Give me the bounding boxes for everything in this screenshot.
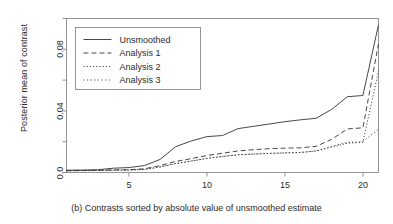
y-axis-tick-label: 0.04	[53, 91, 67, 131]
x-axis-tick-label: 20	[358, 180, 368, 190]
legend-label-2: Analysis 1	[120, 48, 161, 58]
x-axis-tick-label: 10	[202, 180, 212, 190]
y-axis-tick-label: 0.08	[53, 29, 67, 69]
x-axis-tick-label: 5	[126, 180, 131, 190]
figure-caption: (b) Contrasts sorted by absolute value o…	[0, 203, 393, 213]
legend-label-1: Unsmoothed	[120, 35, 171, 45]
y-axis-tick-label: 0.0	[53, 153, 67, 193]
x-axis-tick-label: 15	[280, 180, 290, 190]
legend-label-4: Analysis 3	[120, 75, 161, 85]
legend-label-3: Analysis 2	[120, 62, 161, 72]
figure-panel: Posterior mean of contrast UnsmoothedAna…	[0, 0, 393, 224]
